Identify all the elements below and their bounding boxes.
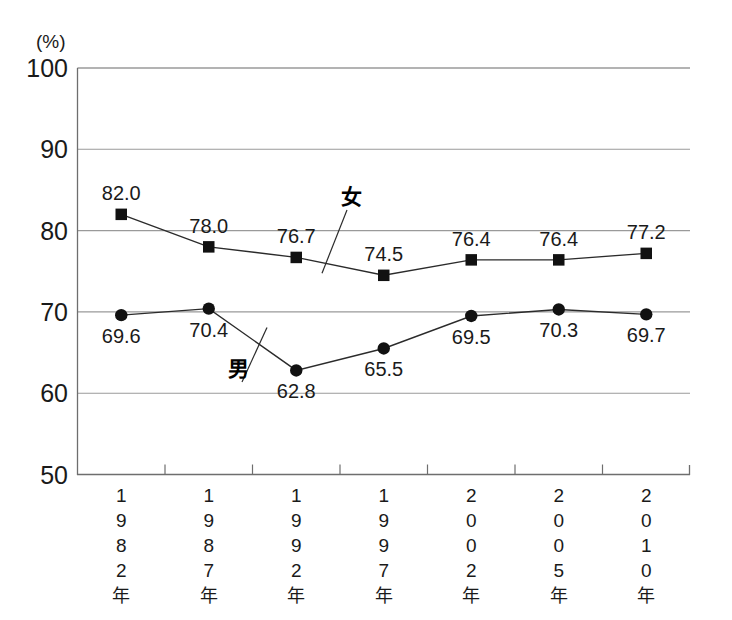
data-value-labels: 82.078.076.774.576.476.477.269.670.462.8…	[102, 182, 666, 402]
y-tick-label-80: 80	[40, 217, 68, 245]
x-cat-label-1997年-char-4: 年	[375, 585, 393, 606]
x-axis-category-labels: 1982年1987年1992年1997年2002年2005年2010年	[112, 485, 655, 606]
data-point-male-1997年	[378, 342, 390, 354]
x-cat-label-1992年-char-1: 9	[291, 510, 302, 531]
x-cat-label-1997年-char-1: 9	[378, 510, 389, 531]
series-annotations: 女男	[228, 185, 362, 382]
value-label-male-1987年: 70.4	[189, 319, 228, 341]
series-tag-male: 男	[228, 357, 249, 381]
value-label-female-2010年: 77.2	[627, 221, 666, 243]
x-cat-label-2002年-char-2: 0	[466, 535, 477, 556]
x-cat-label-2002年-char-1: 0	[466, 510, 477, 531]
value-label-male-2005年: 70.3	[539, 319, 578, 341]
data-point-female-1982年	[116, 209, 128, 221]
data-point-male-2005年	[553, 303, 565, 315]
x-cat-label-1992年-char-2: 9	[291, 535, 302, 556]
x-cat-label-2005年-char-4: 年	[550, 585, 568, 606]
data-point-female-2010年	[641, 248, 653, 260]
x-cat-label-1987年-char-2: 8	[203, 535, 214, 556]
x-cat-label-2005年-char-1: 0	[553, 510, 564, 531]
x-cat-label-1982年-char-2: 8	[116, 535, 127, 556]
value-label-male-1997年: 65.5	[364, 358, 403, 380]
x-cat-label-1992年-char-4: 年	[287, 585, 305, 606]
x-cat-label-1992年-char-3: 2	[291, 560, 302, 581]
value-label-female-1987年: 78.0	[189, 215, 228, 237]
x-cat-label-1997年-char-0: 1	[378, 485, 389, 506]
y-tick-label-90: 90	[40, 135, 68, 163]
x-cat-label-1982年-char-0: 1	[116, 485, 127, 506]
leader-line-female	[322, 210, 347, 273]
value-label-female-1997年: 74.5	[364, 243, 403, 265]
x-cat-label-2005年-char-0: 2	[553, 485, 564, 506]
chart-canvas: (%) 1009080706050 82.078.076.774.576.476…	[0, 0, 732, 620]
x-cat-label-2010年-char-4: 年	[637, 585, 655, 606]
series-tag-female: 女	[341, 185, 362, 209]
value-label-male-2010年: 69.7	[627, 324, 666, 346]
x-cat-label-2010年-char-3: 0	[641, 560, 652, 581]
y-tick-label-60: 60	[40, 379, 68, 407]
x-cat-label-2010年-char-2: 1	[641, 535, 652, 556]
value-label-female-1982年: 82.0	[102, 182, 141, 204]
data-point-female-2005年	[553, 254, 565, 265]
x-cat-label-1992年-char-0: 1	[291, 485, 302, 506]
y-tick-label-70: 70	[40, 298, 68, 326]
x-cat-label-1997年-char-3: 7	[378, 560, 389, 581]
data-point-female-2002年	[466, 254, 478, 265]
x-cat-label-1987年-char-3: 7	[203, 560, 214, 581]
data-point-male-1982年	[115, 309, 127, 321]
x-cat-label-1987年-char-0: 1	[203, 485, 214, 506]
value-label-male-2002年: 69.5	[452, 326, 491, 348]
x-cat-label-2010年-char-1: 0	[641, 510, 652, 531]
x-cat-label-2002年-char-3: 2	[466, 560, 477, 581]
y-axis-unit-label: (%)	[36, 31, 66, 52]
y-tick-label-100: 100	[26, 54, 68, 82]
value-label-female-1992年: 76.7	[277, 225, 316, 247]
x-cat-label-1987年-char-1: 9	[203, 510, 214, 531]
data-point-male-1987年	[203, 302, 215, 314]
data-point-male-2010年	[640, 308, 652, 320]
x-cat-label-1982年-char-3: 2	[116, 560, 127, 581]
data-point-female-1987年	[203, 241, 215, 253]
value-label-male-1982年: 69.6	[102, 325, 141, 347]
x-cat-label-2002年-char-0: 2	[466, 485, 477, 506]
value-label-female-2005年: 76.4	[539, 228, 578, 250]
x-cat-label-2005年-char-2: 0	[553, 535, 564, 556]
y-tick-label-50: 50	[40, 461, 68, 489]
data-point-male-1992年	[290, 364, 302, 376]
x-cat-label-1982年-char-1: 9	[116, 510, 127, 531]
x-axis-tick-marks	[165, 465, 603, 475]
x-cat-label-1982年-char-4: 年	[112, 585, 130, 606]
y-axis-tick-labels: 1009080706050	[26, 54, 68, 489]
value-label-female-2002年: 76.4	[452, 228, 491, 250]
data-point-female-1992年	[291, 252, 303, 264]
x-cat-label-2005年-char-3: 5	[553, 560, 564, 581]
line-chart: (%) 1009080706050 82.078.076.774.576.476…	[0, 0, 732, 620]
x-cat-label-1987年-char-4: 年	[200, 585, 218, 606]
value-label-male-1992年: 62.8	[277, 380, 316, 402]
x-cat-label-1997年-char-2: 9	[378, 535, 389, 556]
x-cat-label-2010年-char-0: 2	[641, 485, 652, 506]
data-point-male-2002年	[465, 310, 477, 322]
data-point-female-1997年	[378, 270, 390, 282]
x-cat-label-2002年-char-4: 年	[462, 585, 480, 606]
